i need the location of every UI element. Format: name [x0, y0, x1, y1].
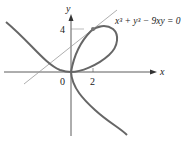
y-axis-label: y — [65, 3, 71, 14]
x-axis-label: x — [159, 66, 165, 77]
origin-label: 0 — [60, 76, 65, 87]
equation-label: x³ + y³ − 9xy = 0 — [114, 16, 181, 26]
x-tick-label: 2 — [90, 76, 95, 87]
y-axis-arrow-icon — [69, 14, 74, 21]
y-tick-label: 4 — [60, 24, 65, 35]
folium-diagram: y x 4 2 0 x³ + y³ − 9xy = 0 — [0, 0, 194, 144]
x-axis-arrow-icon — [150, 70, 157, 75]
folium-curve — [6, 22, 127, 135]
tangent-point — [91, 27, 95, 31]
